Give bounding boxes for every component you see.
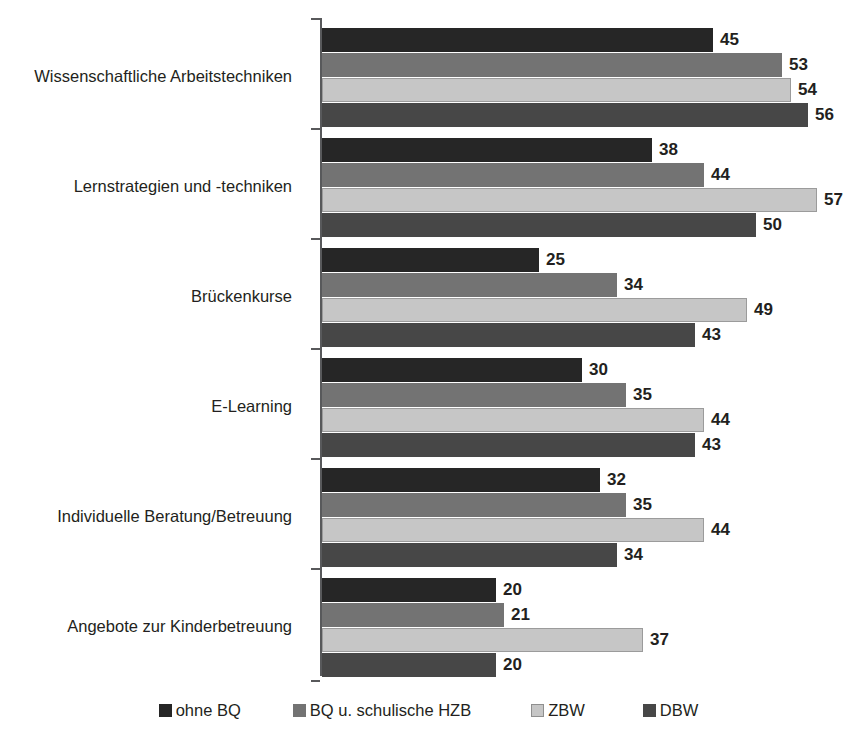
bar-chart: Wissenschaftliche Arbeitstechniken455354… (0, 0, 857, 743)
bar-dbw-angebote-zur-kinderbetreuung[interactable] (322, 653, 496, 677)
bar-dbw-lernstrategien-und-techniken[interactable] (322, 213, 756, 237)
category-label-individuelle-beratung-betreuung: Individuelle Beratung/Betreuung (0, 507, 292, 526)
bar-value-label: 43 (702, 325, 721, 345)
bar-value-label: 38 (659, 140, 678, 160)
bar-dbw-e-learning[interactable] (322, 433, 695, 457)
plot-area: Wissenschaftliche Arbeitstechniken455354… (0, 0, 857, 690)
legend-swatch-dbw-icon (643, 704, 656, 717)
bar-value-label: 50 (763, 215, 782, 235)
bar-value-label: 34 (624, 545, 643, 565)
category-group-angebote-zur-kinderbetreuung: Angebote zur Kinderbetreuung20213720 (0, 578, 857, 678)
bar-value-label: 35 (633, 385, 652, 405)
bar-value-label: 20 (503, 580, 522, 600)
legend-item-zbw[interactable]: ZBW (531, 701, 585, 720)
bar-value-label: 57 (824, 190, 843, 210)
bar-value-label: 37 (650, 630, 669, 650)
category-label-brueckenkurse: Brückenkurse (0, 287, 292, 306)
axis-tick (311, 348, 320, 350)
bar-value-label: 53 (789, 55, 808, 75)
bar-bq-u-schulische-hzb-brueckenkurse[interactable] (322, 273, 617, 297)
category-group-lernstrategien-und-techniken: Lernstrategien und -techniken38445750 (0, 138, 857, 238)
bar-value-label: 21 (511, 605, 530, 625)
bar-bq-u-schulische-hzb-individuelle-beratung-betreuung[interactable] (322, 493, 626, 517)
axis-tick (311, 458, 320, 460)
legend-label: DBW (660, 701, 699, 720)
bar-value-label: 25 (546, 250, 565, 270)
bar-ohne-bq-e-learning[interactable] (322, 358, 582, 382)
axis-tick (311, 238, 320, 240)
bar-value-label: 32 (607, 470, 626, 490)
legend-item-dbw[interactable]: DBW (643, 701, 699, 720)
category-group-e-learning: E-Learning30354443 (0, 358, 857, 458)
bar-value-label: 35 (633, 495, 652, 515)
bar-ohne-bq-individuelle-beratung-betreuung[interactable] (322, 468, 600, 492)
legend-swatch-ohne-bq-icon (159, 704, 172, 717)
bar-value-label: 44 (711, 410, 730, 430)
axis-tick (311, 680, 320, 682)
chart-legend: ohne BQBQ u. schulische HZBZBWDBW (0, 697, 857, 723)
bar-ohne-bq-lernstrategien-und-techniken[interactable] (322, 138, 652, 162)
bar-bq-u-schulische-hzb-wissenschaftliche-arbeitstechniken[interactable] (322, 53, 782, 77)
legend-swatch-bq-u-schulische-hzb-icon (293, 704, 306, 717)
axis-tick (311, 568, 320, 570)
category-label-lernstrategien-und-techniken: Lernstrategien und -techniken (0, 177, 292, 196)
legend-label: BQ u. schulische HZB (310, 701, 471, 720)
legend-swatch-zbw-icon (531, 704, 544, 717)
legend-item-ohne-bq[interactable]: ohne BQ (159, 701, 241, 720)
bar-value-label: 54 (798, 80, 817, 100)
bar-dbw-brueckenkurse[interactable] (322, 323, 695, 347)
bar-bq-u-schulische-hzb-angebote-zur-kinderbetreuung[interactable] (322, 603, 504, 627)
category-label-e-learning: E-Learning (0, 397, 292, 416)
bar-value-label: 20 (503, 655, 522, 675)
category-group-brueckenkurse: Brückenkurse25344943 (0, 248, 857, 348)
bar-value-label: 43 (702, 435, 721, 455)
bar-dbw-wissenschaftliche-arbeitstechniken[interactable] (322, 103, 808, 127)
bar-ohne-bq-wissenschaftliche-arbeitstechniken[interactable] (322, 28, 713, 52)
bar-ohne-bq-angebote-zur-kinderbetreuung[interactable] (322, 578, 496, 602)
legend-label: ZBW (548, 701, 585, 720)
bar-value-label: 44 (711, 165, 730, 185)
bar-zbw-wissenschaftliche-arbeitstechniken[interactable] (322, 78, 791, 102)
category-label-angebote-zur-kinderbetreuung: Angebote zur Kinderbetreuung (0, 617, 292, 636)
bar-zbw-individuelle-beratung-betreuung[interactable] (322, 518, 704, 542)
legend-item-bq-u-schulische-hzb[interactable]: BQ u. schulische HZB (293, 701, 471, 720)
bar-value-label: 45 (720, 30, 739, 50)
bar-value-label: 56 (815, 105, 834, 125)
legend-label: ohne BQ (176, 701, 241, 720)
bar-value-label: 34 (624, 275, 643, 295)
bar-zbw-angebote-zur-kinderbetreuung[interactable] (322, 628, 643, 652)
bar-ohne-bq-brueckenkurse[interactable] (322, 248, 539, 272)
axis-tick (311, 18, 320, 20)
category-label-wissenschaftliche-arbeitstechniken: Wissenschaftliche Arbeitstechniken (0, 67, 292, 86)
bar-dbw-individuelle-beratung-betreuung[interactable] (322, 543, 617, 567)
bar-value-label: 49 (754, 300, 773, 320)
category-group-wissenschaftliche-arbeitstechniken: Wissenschaftliche Arbeitstechniken455354… (0, 28, 857, 128)
axis-tick (311, 128, 320, 130)
bar-bq-u-schulische-hzb-e-learning[interactable] (322, 383, 626, 407)
bar-zbw-brueckenkurse[interactable] (322, 298, 747, 322)
category-group-individuelle-beratung-betreuung: Individuelle Beratung/Betreuung32354434 (0, 468, 857, 568)
bar-value-label: 44 (711, 520, 730, 540)
bar-zbw-lernstrategien-und-techniken[interactable] (322, 188, 817, 212)
bar-zbw-e-learning[interactable] (322, 408, 704, 432)
bar-value-label: 30 (589, 360, 608, 380)
bar-bq-u-schulische-hzb-lernstrategien-und-techniken[interactable] (322, 163, 704, 187)
